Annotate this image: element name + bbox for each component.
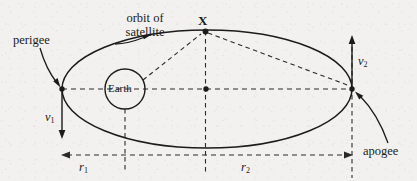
r1-dimension-left-arrowhead: [61, 152, 70, 159]
orbit-caption-line-2: satellite: [104, 26, 186, 40]
v2-label-subscript: 2: [364, 60, 368, 69]
perigee-leader-line: [40, 48, 57, 83]
earth-to-satellite-dashed-line: [143, 34, 201, 80]
v1-label: v1: [45, 111, 55, 125]
perigee-label: perigee: [13, 34, 50, 47]
v1-label-subscript: 1: [51, 116, 55, 125]
v2-label: v2: [358, 55, 368, 69]
v1-vector-arrowhead: [59, 130, 66, 139]
r2-label: r2: [241, 161, 250, 175]
r2-label-subscript: 2: [246, 166, 250, 175]
figure-canvas: orbit of satellite X perigee apogee Eart…: [0, 0, 417, 181]
apogee-label: apogee: [363, 145, 398, 158]
ellipse-center-marker: [203, 86, 208, 91]
orbit-caption-line-1: orbit of: [104, 12, 186, 26]
orbit-diagram-graphics: [0, 0, 417, 181]
satellite-point-label: X: [198, 14, 207, 27]
satellite-point-marker: [203, 29, 209, 35]
v2-vector-arrowhead: [349, 35, 356, 44]
apogee-leader-line: [360, 96, 388, 143]
satellite-to-apogee-dashed-line: [208, 33, 350, 86]
r1-label: r1: [79, 161, 88, 175]
earth-label: Earth: [108, 83, 132, 94]
earth-label-text: Earth: [108, 82, 132, 94]
orbit-of-satellite-caption: orbit of satellite: [104, 12, 186, 39]
r1-label-subscript: 1: [84, 166, 88, 175]
